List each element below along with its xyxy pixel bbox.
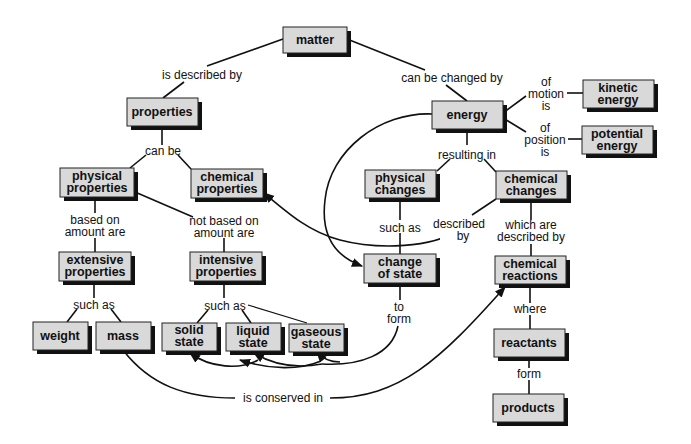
svg-text:mass: mass xyxy=(107,329,139,343)
link-such-as-extensive: such as xyxy=(73,298,114,312)
node-intensive-properties: intensiveproperties xyxy=(190,252,266,285)
edge-chemchanges-described xyxy=(472,199,496,215)
edge-changed-energy xyxy=(446,85,467,101)
node-properties: properties xyxy=(127,98,202,130)
node-physical-changes: physicalchanges xyxy=(365,170,440,202)
link-resulting-in: resulting in xyxy=(438,148,496,162)
node-change-of-state: changeof state xyxy=(364,254,440,287)
svg-text:energy: energy xyxy=(447,108,488,122)
link-where: where xyxy=(513,302,547,316)
link-to-form: toform xyxy=(387,300,411,326)
edge-mass-conserved xyxy=(123,350,235,398)
svg-text:potentialenergy: potentialenergy xyxy=(591,127,643,153)
concept-map: is described by can be changed by can be… xyxy=(0,0,691,444)
edge-matter-described xyxy=(207,39,283,66)
link-can-be-changed-by: can be changed by xyxy=(401,71,502,85)
node-gaseous-state: gaseousstate xyxy=(289,324,348,356)
link-can-be: can be xyxy=(145,144,181,158)
node-extensive-properties: extensiveproperties xyxy=(59,252,135,285)
node-matter: matter xyxy=(283,27,351,57)
edge-conserved-reactions xyxy=(330,287,505,398)
node-chemical-properties: chemicalproperties xyxy=(191,169,267,202)
node-liquid-state: liquidstate xyxy=(226,323,285,355)
link-which-are-described-by: which aredescribed by xyxy=(497,218,565,244)
svg-text:weight: weight xyxy=(39,329,80,343)
node-products: products xyxy=(493,394,568,426)
svg-text:physicalchanges: physicalchanges xyxy=(375,171,426,197)
link-such-as-intensive: such as xyxy=(204,299,245,313)
node-mass: mass xyxy=(96,322,155,354)
svg-text:products: products xyxy=(501,401,555,415)
svg-text:chemicalproperties: chemicalproperties xyxy=(196,170,257,196)
node-reactants: reactants xyxy=(494,329,569,361)
node-solid-state: solidstate xyxy=(162,323,221,355)
edge-physical-notbased xyxy=(135,192,193,217)
svg-text:intensiveproperties: intensiveproperties xyxy=(195,253,256,279)
edge-suchas-gaseous xyxy=(248,305,307,323)
node-energy: energy xyxy=(432,101,507,133)
svg-text:liquidstate: liquidstate xyxy=(236,324,269,350)
link-based-on-amount: based onamount are xyxy=(65,213,126,239)
link-of-position-is: ofpositionis xyxy=(524,121,565,159)
node-physical-properties: physicalproperties xyxy=(60,168,138,201)
nodes: matter properties physicalproperties che… xyxy=(33,27,658,426)
svg-text:physicalproperties: physicalproperties xyxy=(66,169,127,195)
edge-described-properties xyxy=(163,82,184,98)
svg-text:chemicalchanges: chemicalchanges xyxy=(504,172,558,198)
node-kinetic-energy: kineticenergy xyxy=(583,80,658,112)
link-such-as-physical: such as xyxy=(379,221,420,235)
node-chemical-changes: chemicalchanges xyxy=(496,171,571,203)
svg-text:properties: properties xyxy=(131,105,192,119)
edge-canbe-physical xyxy=(130,155,146,168)
svg-text:reactants: reactants xyxy=(501,336,557,350)
node-chemical-reactions: chemicalreactions xyxy=(495,256,570,288)
link-form: form xyxy=(517,367,541,381)
svg-text:solidstate: solidstate xyxy=(174,323,203,349)
node-weight: weight xyxy=(33,322,92,354)
link-not-based-on-amount: not based onamount are xyxy=(189,214,258,240)
svg-text:matter: matter xyxy=(296,33,334,47)
svg-text:chemicalreactions: chemicalreactions xyxy=(502,257,558,283)
svg-text:changeof state: changeof state xyxy=(378,255,423,281)
node-potential-energy: potentialenergy xyxy=(582,126,657,158)
link-is-described-by: is described by xyxy=(162,68,242,82)
edge-matter-changed xyxy=(347,39,425,70)
link-of-motion-is: ofmotionis xyxy=(528,75,564,113)
link-is-conserved-in: is conserved in xyxy=(243,391,323,405)
svg-text:extensiveproperties: extensiveproperties xyxy=(64,253,125,279)
svg-text:kineticenergy: kineticenergy xyxy=(598,81,639,107)
